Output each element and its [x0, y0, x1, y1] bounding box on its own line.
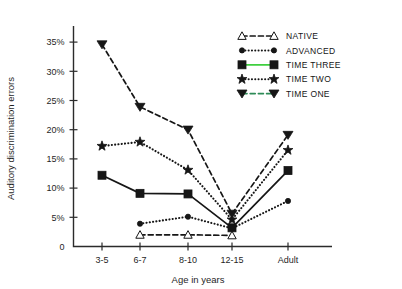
x-tick-label: 8-10: [179, 255, 197, 265]
chart-container: 05%10%15%20%25%30%35% 3-56-78-1012-15Adu…: [0, 0, 402, 289]
auditory-discrimination-line-chart: 05%10%15%20%25%30%35% 3-56-78-1012-15Adu…: [0, 0, 402, 289]
legend-label: TIME TWO: [286, 74, 331, 84]
y-tick-label: 20%: [46, 125, 64, 135]
data-point-marker: [136, 189, 144, 197]
y-axis-title: Auditory discrimination errors: [5, 77, 16, 200]
data-point-marker: [137, 221, 142, 226]
data-point-marker: [270, 61, 278, 69]
x-tick-label: 6-7: [133, 255, 146, 265]
data-point-marker: [228, 224, 236, 232]
x-tick-label: 12-15: [220, 255, 243, 265]
data-point-marker: [184, 190, 192, 198]
y-tick-label: 25%: [46, 96, 64, 106]
x-tick-label: Adult: [278, 255, 299, 265]
x-tick-label: 3-5: [95, 255, 108, 265]
y-tick-label: 35%: [46, 37, 64, 47]
y-tick-label: 10%: [46, 183, 64, 193]
data-point-marker: [285, 198, 290, 203]
legend-label: TIME THREE: [286, 60, 341, 70]
data-point-marker: [185, 214, 190, 219]
y-tick-label: 5%: [51, 213, 64, 223]
data-point-marker: [98, 171, 106, 179]
legend-label: NATIVE: [286, 31, 318, 41]
x-axis-title: Age in years: [172, 274, 225, 285]
data-point-marker: [238, 61, 246, 69]
legend-label: TIME ONE: [286, 89, 330, 99]
legend-label: ADVANCED: [286, 46, 335, 56]
y-tick-label: 15%: [46, 154, 64, 164]
data-point-marker: [239, 48, 244, 53]
data-point-marker: [271, 48, 276, 53]
y-tick-label: 30%: [46, 67, 64, 77]
y-tick-label: 0: [59, 242, 64, 252]
data-point-marker: [284, 167, 292, 175]
